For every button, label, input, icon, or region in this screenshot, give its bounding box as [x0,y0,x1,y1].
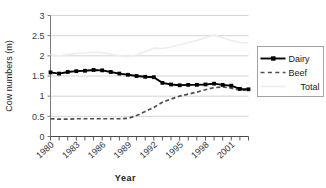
series-marker-dairy-15 [178,83,182,87]
x-axis-title: Year [115,173,136,183]
series-marker-dairy-9 [126,73,130,77]
series-marker-dairy-2 [66,70,70,74]
series-marker-dairy-8 [117,72,121,76]
series-marker-dairy-6 [100,68,104,72]
cow-numbers-line-chart: 00.511.522.53198019831986198919921995199… [0,0,326,188]
x-tick-label-6: 1998 [189,140,211,161]
series-marker-dairy-22 [238,87,242,91]
y-tick-label-3: 1.5 [32,71,45,81]
x-tick-label-1: 1983 [60,140,82,161]
series-marker-dairy-17 [195,83,199,87]
y-tick-label-0: 0 [39,132,44,142]
x-tick-label-5: 1995 [163,140,185,161]
y-tick-label-5: 2.5 [32,31,45,41]
series-marker-dairy-7 [109,70,113,74]
chart-container: 00.511.522.53198019831986198919921995199… [0,0,326,188]
legend-label-dairy: Dairy [289,54,311,64]
x-tick-label-3: 1989 [112,140,134,161]
x-tick-label-4: 1992 [138,140,160,161]
series-marker-dairy-4 [83,69,87,73]
series-marker-dairy-11 [143,75,147,79]
legend-label-beef: Beef [289,68,308,78]
y-axis-title: Cow numbers (m) [4,40,14,112]
x-tick-label-7: 2001 [215,140,237,161]
series-marker-dairy-1 [57,72,61,76]
y-tick-label-4: 2 [39,51,44,61]
series-marker-dairy-21 [229,84,233,88]
series-marker-dairy-12 [152,75,156,79]
series-marker-dairy-18 [204,83,208,87]
y-tick-label-6: 3 [39,11,44,21]
x-tick-label-0: 1980 [34,140,56,161]
series-marker-dairy-5 [92,68,96,72]
series-marker-dairy-23 [247,87,251,91]
series-marker-dairy-13 [161,81,165,85]
series-marker-dairy-14 [169,83,173,87]
series-marker-dairy-20 [221,83,225,87]
y-tick-label-1: 0.5 [32,112,45,122]
legend-marker-dairy [271,56,275,60]
legend-label-total: Total [300,82,319,92]
series-marker-dairy-10 [135,74,139,78]
series-marker-dairy-19 [212,82,216,86]
series-marker-dairy-3 [74,69,78,73]
series-marker-dairy-16 [186,83,190,87]
y-tick-label-2: 1 [39,91,44,101]
series-marker-dairy-0 [49,70,53,74]
x-tick-label-2: 1986 [86,140,108,161]
